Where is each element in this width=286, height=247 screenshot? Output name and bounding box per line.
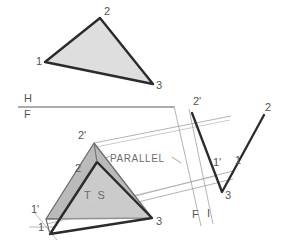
drawing-canvas: 1 2 3 H F 2' 1' 3 2 1 2' 1' 3 2 1 F I PA… — [0, 0, 286, 247]
projection-line-2prime-lower — [96, 120, 230, 147]
reference-line-label-h: H — [24, 93, 32, 104]
vertex-label-front-1: 1 — [38, 222, 44, 233]
vertex-label-edge-2prime: 2' — [193, 96, 201, 107]
top-view-triangle — [45, 18, 153, 84]
vertex-label-top-3: 3 — [156, 80, 162, 91]
vertex-label-aux-1prime: 1' — [31, 204, 39, 215]
vertex-label-top-1: 1 — [36, 56, 42, 67]
leader-parallel-right — [172, 157, 181, 163]
edge-view-polyline — [192, 113, 264, 192]
vertex-label-edge-1: 1 — [235, 155, 241, 166]
reference-line-label-f: F — [24, 109, 31, 120]
vertex-label-edge-1prime: 1' — [213, 157, 221, 168]
annotation-parallel: PARALLEL — [110, 154, 165, 164]
connector-1prime-to-1 — [46, 219, 50, 234]
fold-label-f: F — [192, 209, 199, 220]
fold-label-i: I — [207, 208, 210, 219]
vertex-label-front-2: 2 — [75, 163, 81, 174]
vertex-label-aux-3: 3 — [156, 216, 162, 227]
annotation-true-size: T S — [84, 190, 107, 201]
vertex-label-top-2: 2 — [104, 6, 110, 17]
geometry-svg — [0, 0, 286, 247]
vertex-label-edge-2: 2 — [265, 102, 271, 113]
projection-line-2prime — [94, 116, 231, 143]
vertex-label-edge-3: 3 — [225, 190, 231, 201]
vertex-label-aux-2prime: 2' — [78, 130, 86, 141]
